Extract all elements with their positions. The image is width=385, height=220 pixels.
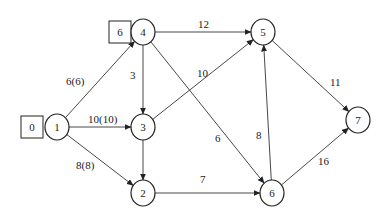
node-label: 6 bbox=[269, 187, 275, 199]
edge-label-6-7: 16 bbox=[318, 155, 330, 167]
edge-4-to-6 bbox=[151, 42, 264, 183]
box-label: 6 bbox=[117, 26, 123, 38]
edge-label-1-4: 6(6) bbox=[66, 75, 85, 88]
graph-svg: 6(6)10(10)8(8)123610781116 06 1234567 bbox=[0, 0, 385, 220]
node-label: 2 bbox=[140, 187, 146, 199]
edge-label-4-5: 12 bbox=[198, 18, 209, 30]
edge-label-2-6: 7 bbox=[200, 173, 206, 185]
edge-label-4-3: 3 bbox=[130, 69, 136, 81]
edge-label-5-7: 11 bbox=[330, 76, 341, 88]
node-label: 3 bbox=[140, 121, 146, 133]
edge-label-1-2: 8(8) bbox=[76, 159, 95, 172]
flow-network-diagram: 6(6)10(10)8(8)123610781116 06 1234567 bbox=[0, 0, 385, 220]
box-label: 0 bbox=[29, 121, 35, 133]
edge-label-4-6: 6 bbox=[215, 132, 221, 144]
node-label: 5 bbox=[260, 26, 266, 38]
edge-6-to-5 bbox=[264, 45, 272, 180]
node-label: 7 bbox=[355, 114, 361, 126]
edge-label-3-5: 10 bbox=[197, 67, 209, 79]
edge-6-to-7 bbox=[281, 128, 348, 185]
node-label: 4 bbox=[140, 26, 146, 38]
node-label: 1 bbox=[54, 121, 60, 133]
edge-labels-group: 6(6)10(10)8(8)123610781116 bbox=[66, 18, 341, 185]
edge-label-6-5: 8 bbox=[256, 129, 262, 141]
edge-label-1-3: 10(10) bbox=[88, 113, 118, 126]
